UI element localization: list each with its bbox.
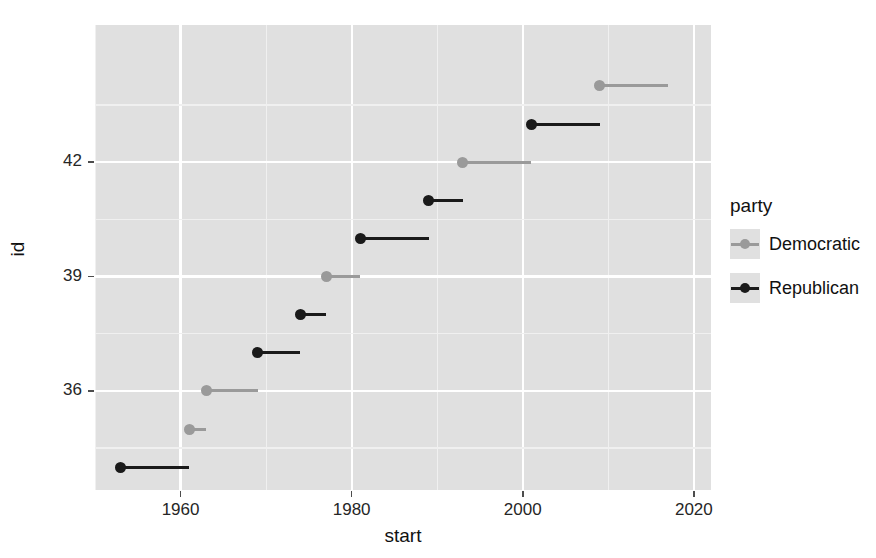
- x-tick-mark: [693, 491, 695, 497]
- y-tick-mark: [88, 161, 94, 163]
- data-point: [201, 385, 212, 396]
- legend-key-icon: [730, 229, 760, 259]
- gridline-x-major: [179, 25, 181, 490]
- data-segment: [206, 389, 257, 392]
- y-tick-mark: [88, 390, 94, 392]
- legend-item-label: Republican: [769, 278, 859, 299]
- x-tick-label: 2020: [659, 500, 729, 520]
- data-point: [295, 309, 306, 320]
- data-point: [184, 424, 195, 435]
- x-tick-mark: [522, 491, 524, 497]
- gridline-x-minor: [266, 25, 267, 490]
- data-segment: [258, 351, 301, 354]
- legend-item-dem[interactable]: Democratic: [730, 229, 870, 259]
- chart-root: 1960198020002020 363942 start id party D…: [0, 0, 876, 558]
- gridline-y-minor: [95, 104, 711, 105]
- gridline-x-minor: [95, 25, 96, 490]
- gridline-x-major: [351, 25, 353, 490]
- gridline-x-minor: [437, 25, 438, 490]
- data-point: [526, 119, 537, 130]
- gridline-y-major: [95, 275, 711, 277]
- x-tick-label: 1980: [317, 500, 387, 520]
- y-tick-label: 36: [28, 380, 82, 400]
- legend-key-icon: [730, 273, 760, 303]
- y-tick-label: 42: [28, 151, 82, 171]
- gridline-x-minor: [608, 25, 609, 490]
- gridline-y-minor: [95, 219, 711, 220]
- data-segment: [360, 237, 428, 240]
- data-point: [252, 347, 263, 358]
- x-tick-label: 2000: [488, 500, 558, 520]
- y-tick-label: 39: [28, 266, 82, 286]
- plot-panel: [95, 25, 711, 490]
- y-axis-title: id: [7, 209, 29, 289]
- gridline-y-minor: [95, 333, 711, 334]
- data-point: [355, 233, 366, 244]
- x-tick-label: 1960: [146, 500, 216, 520]
- legend-title: party: [730, 195, 870, 217]
- y-tick-mark: [88, 276, 94, 278]
- x-tick-mark: [180, 491, 182, 497]
- data-segment: [531, 123, 599, 126]
- gridline-x-major: [693, 25, 695, 490]
- data-point: [321, 271, 332, 282]
- gridline-y-major: [95, 390, 711, 392]
- gridline-y-major: [95, 161, 711, 163]
- legend-item-label: Democratic: [769, 234, 860, 255]
- x-axis-title: start: [95, 525, 711, 547]
- gridline-y-minor: [95, 447, 711, 448]
- data-segment: [121, 466, 189, 469]
- legend-item-rep[interactable]: Republican: [730, 273, 870, 303]
- legend-point-icon: [740, 283, 750, 293]
- data-point: [594, 80, 605, 91]
- data-point: [115, 462, 126, 473]
- data-segment: [600, 84, 668, 87]
- x-tick-mark: [351, 491, 353, 497]
- legend: party DemocraticRepublican: [730, 195, 870, 317]
- legend-entries: DemocraticRepublican: [730, 229, 870, 303]
- data-point: [457, 157, 468, 168]
- data-point: [423, 195, 434, 206]
- legend-point-icon: [740, 239, 750, 249]
- data-segment: [463, 161, 531, 164]
- gridline-x-major: [522, 25, 524, 490]
